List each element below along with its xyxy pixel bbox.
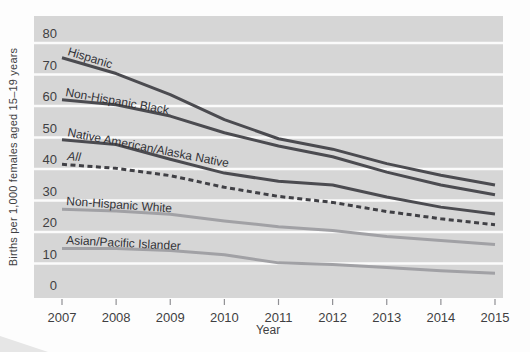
y-axis-title: Births per 1,000 females aged 15–19 year… bbox=[7, 48, 19, 267]
y-tick-label-40: 40 bbox=[43, 152, 57, 167]
y-tick-label-80: 80 bbox=[43, 26, 57, 41]
y-tick-label-20: 20 bbox=[43, 215, 57, 230]
x-tick-label-2007: 2007 bbox=[48, 310, 77, 325]
chart-canvas: 0102030405060708020072008200920102011201… bbox=[0, 0, 530, 352]
y-tick-label-70: 70 bbox=[43, 58, 57, 73]
x-tick-label-2008: 2008 bbox=[102, 310, 131, 325]
y-tick-label-30: 30 bbox=[43, 184, 57, 199]
y-tick-label-10: 10 bbox=[43, 247, 57, 262]
x-tick-label-2012: 2012 bbox=[318, 310, 347, 325]
x-tick-label-2014: 2014 bbox=[426, 310, 455, 325]
x-axis-title: Year bbox=[256, 323, 280, 337]
x-tick-label-2009: 2009 bbox=[156, 310, 185, 325]
x-tick-label-2013: 2013 bbox=[372, 310, 401, 325]
page-corner-shadow bbox=[0, 336, 48, 352]
teen-birth-rate-figure: 0102030405060708020072008200920102011201… bbox=[0, 0, 530, 352]
y-tick-label-50: 50 bbox=[43, 121, 57, 136]
series-label-all: All bbox=[66, 149, 82, 164]
x-tick-label-2015: 2015 bbox=[481, 310, 510, 325]
y-tick-label-60: 60 bbox=[43, 89, 57, 104]
y-tick-label-0: 0 bbox=[50, 278, 57, 293]
x-tick-label-2010: 2010 bbox=[210, 310, 239, 325]
